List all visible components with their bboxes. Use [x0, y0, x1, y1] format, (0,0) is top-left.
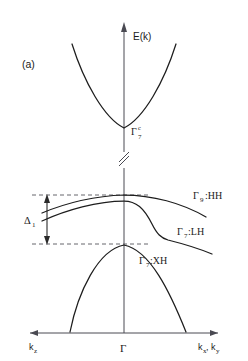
conduction-band-gamma: Γ	[131, 126, 137, 137]
energy-axis-label: E(k)	[133, 31, 151, 42]
conduction-band-superscript: c	[138, 124, 141, 131]
k-axis-right-arrowhead	[210, 330, 218, 336]
xh-gamma: Γ	[139, 255, 145, 266]
hh-subscript: 9	[200, 196, 204, 204]
lh-gamma: Γ	[177, 226, 183, 237]
ky-subscript: y	[216, 347, 220, 355]
delta1-subscript: 1	[32, 221, 36, 229]
hh-suffix: :HH	[205, 190, 222, 201]
kz-subscript: z	[34, 347, 37, 355]
vertical-axis	[119, 22, 129, 333]
lh-suffix: :LH	[188, 226, 204, 237]
kxky-separator: ,	[206, 342, 209, 352]
origin-gamma-label: Γ	[120, 342, 126, 354]
delta1-symbol: Δ	[24, 215, 31, 226]
conduction-band-label: Γ 7 c	[131, 124, 142, 141]
light-hole-label: Γ 7 :LH	[177, 226, 204, 240]
axis-break-icon	[119, 152, 129, 166]
k-axis-left-arrowhead	[30, 330, 38, 336]
band-structure-figure: (a) E(k) Γ 7 c Γ 9 :HH Γ 7 :LH Γ 7 :XH	[0, 0, 248, 361]
xh-suffix: :XH	[150, 255, 167, 266]
panel-label: (a)	[22, 58, 35, 70]
heavy-hole-label: Γ 9 :HH	[193, 190, 222, 204]
conduction-band-subscript: 7	[138, 133, 142, 141]
kz-axis-label: k z	[29, 342, 37, 355]
energy-axis-arrowhead	[121, 22, 127, 32]
delta1-label: Δ 1	[24, 215, 36, 229]
hh-gamma: Γ	[193, 190, 199, 201]
band-diagram-canvas: (a) E(k) Γ 7 c Γ 9 :HH Γ 7 :LH Γ 7 :XH	[0, 0, 248, 361]
crystal-field-split-band-curve	[70, 245, 186, 332]
kxky-axis-label: k x , k y	[198, 342, 220, 355]
